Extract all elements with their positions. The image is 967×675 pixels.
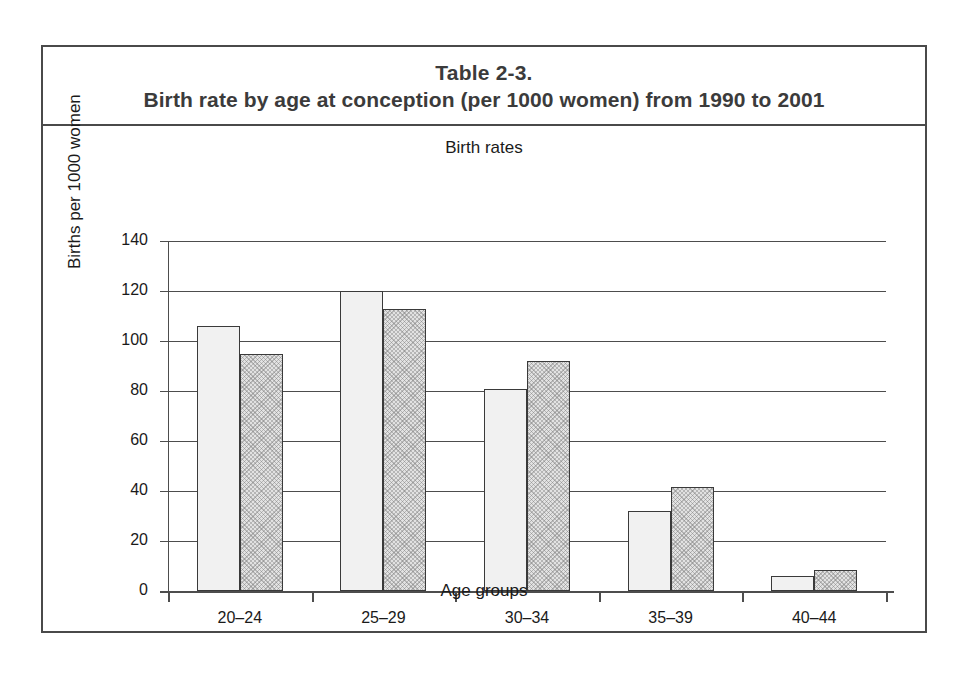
x-tick-label-0: 20–24 xyxy=(170,609,310,627)
bar-25-29-1990 xyxy=(340,291,383,591)
plot-region: 02040608010012014020–2425–2930–3435–3940… xyxy=(168,241,886,591)
x-tick-label-1: 25–29 xyxy=(313,609,453,627)
y-tick-label-20: 20 xyxy=(88,531,148,549)
y-tick-label-80: 80 xyxy=(88,381,148,399)
chart-title: Birth rates xyxy=(43,138,925,158)
bar-35-39-1990 xyxy=(628,511,671,591)
bar-35-39-2001 xyxy=(671,487,714,591)
bar-30-34-2001 xyxy=(527,361,570,591)
bar-20-24-2001 xyxy=(240,354,283,592)
gridline-140 xyxy=(168,241,886,242)
y-tick-20 xyxy=(160,541,168,542)
gridline-100 xyxy=(168,341,886,342)
table-caption: Table 2-3. Birth rate by age at concepti… xyxy=(43,47,925,126)
y-tick-label-40: 40 xyxy=(88,481,148,499)
figure-page: Table 2-3. Birth rate by age at concepti… xyxy=(0,0,967,675)
bar-20-24-1990 xyxy=(197,326,240,591)
x-tick-label-3: 35–39 xyxy=(601,609,741,627)
bar-25-29-2001 xyxy=(383,309,426,592)
chart-area: Birth rates Births per 1000 women 020406… xyxy=(43,126,925,631)
y-tick-label-140: 140 xyxy=(88,231,148,249)
y-tick-80 xyxy=(160,391,168,392)
x-tick-label-2: 30–34 xyxy=(457,609,597,627)
y-tick-120 xyxy=(160,291,168,292)
table-frame: Table 2-3. Birth rate by age at concepti… xyxy=(41,45,927,633)
y-axis-line xyxy=(168,241,169,591)
table-caption-text: Birth rate by age at conception (per 100… xyxy=(143,86,824,114)
table-caption-number: Table 2-3. xyxy=(435,60,532,86)
y-tick-40 xyxy=(160,491,168,492)
gridline-120 xyxy=(168,291,886,292)
x-tick-label-4: 40–44 xyxy=(744,609,884,627)
y-tick-label-100: 100 xyxy=(88,331,148,349)
y-tick-label-120: 120 xyxy=(88,281,148,299)
y-tick-label-60: 60 xyxy=(88,431,148,449)
y-tick-100 xyxy=(160,341,168,342)
y-tick-60 xyxy=(160,441,168,442)
bar-30-34-1990 xyxy=(484,389,527,592)
y-axis-title: Births per 1000 women xyxy=(65,94,85,269)
y-tick-140 xyxy=(160,241,168,242)
x-axis-title: Age groups xyxy=(43,581,925,601)
